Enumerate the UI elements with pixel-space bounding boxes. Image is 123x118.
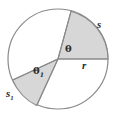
- angle-theta1-subscript: 1: [40, 71, 44, 78]
- circle-sector-figure: s s1 r θ θ1: [0, 0, 123, 118]
- arc-s1-subscript: 1: [10, 94, 13, 101]
- arc-length-label-s1: s1: [6, 88, 14, 102]
- circle-diagram-svg: [0, 0, 123, 118]
- angle-label-theta1: θ1: [33, 66, 44, 78]
- angle-label-theta: θ: [65, 44, 72, 54]
- arc-length-label-s: s: [97, 19, 101, 30]
- radius-label-r: r: [82, 60, 86, 71]
- angle-theta1-base: θ: [33, 65, 40, 76]
